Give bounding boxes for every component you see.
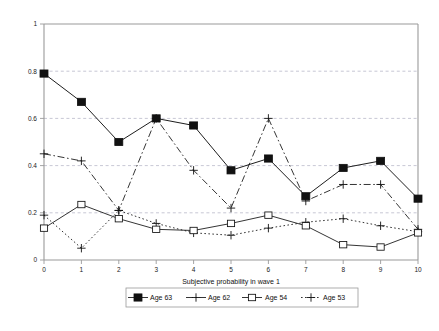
y-tick-label: 0.6 [28, 115, 37, 122]
y-tick-label: 1 [33, 20, 37, 27]
data-point-marker [302, 193, 310, 200]
x-tick-label: 10 [414, 266, 422, 273]
x-axis-title: Subjective probability in wave 1 [182, 278, 280, 286]
y-tick-label: 0.4 [28, 162, 37, 169]
data-point-marker [414, 230, 421, 236]
y-tick-label: 0.2 [28, 209, 37, 216]
legend-label: Age 62 [208, 294, 230, 302]
line-chart: 012345678910 00.20.40.60.81 Subjective p… [0, 0, 439, 331]
x-tick-label: 2 [117, 266, 121, 273]
legend-marker [134, 294, 142, 301]
data-point-marker [414, 195, 422, 202]
data-point-marker [227, 167, 235, 174]
data-point-marker [264, 155, 272, 162]
data-point-marker [115, 138, 123, 145]
x-tick-label: 3 [154, 266, 158, 273]
data-point-marker [40, 225, 47, 231]
x-tick-label: 7 [304, 266, 308, 273]
data-point-marker [77, 98, 85, 105]
x-tick-label: 5 [229, 266, 233, 273]
data-point-marker [190, 227, 197, 233]
data-point-marker [153, 226, 160, 232]
legend-label: Age 53 [323, 294, 345, 302]
data-point-marker [78, 201, 85, 207]
data-point-marker [227, 220, 234, 226]
data-point-marker [302, 223, 309, 229]
y-tick-label: 0 [33, 256, 37, 263]
legend: Age 63Age 62Age 54Age 53 [126, 288, 358, 307]
data-point-marker [377, 157, 385, 164]
legend-marker [248, 294, 255, 300]
data-point-marker [265, 212, 272, 218]
y-tick-label: 0.8 [28, 68, 37, 75]
data-point-marker [115, 216, 122, 222]
figure-container: 012345678910 00.20.40.60.81 Subjective p… [0, 0, 439, 331]
x-tick-label: 4 [192, 266, 196, 273]
data-point-marker [40, 70, 48, 77]
data-point-marker [340, 241, 347, 247]
data-point-marker [152, 115, 160, 122]
x-tick-label: 0 [42, 266, 46, 273]
x-tick-label: 9 [379, 266, 383, 273]
legend-label: Age 63 [150, 294, 172, 302]
x-tick-label: 8 [341, 266, 345, 273]
x-tick-label: 1 [80, 266, 84, 273]
data-point-marker [339, 164, 347, 171]
x-tick-label: 6 [267, 266, 271, 273]
legend-label: Age 54 [265, 294, 287, 302]
data-point-marker [377, 244, 384, 250]
data-point-marker [190, 122, 198, 129]
